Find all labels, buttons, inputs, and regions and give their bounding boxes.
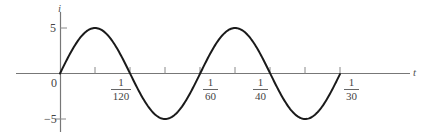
fraction-denominator: 40	[253, 90, 268, 102]
fraction-denominator: 30	[344, 90, 359, 102]
x-axis-label: t	[413, 67, 416, 78]
fraction-numerator: 1	[203, 77, 218, 90]
fraction-numerator: 1	[253, 77, 268, 90]
fraction-numerator: 1	[111, 77, 131, 90]
y-tick-label-neg5: −5	[44, 113, 57, 125]
x-tick-label-1-30: 1 30	[344, 77, 359, 102]
fraction-denominator: 60	[203, 90, 218, 102]
origin-label: 0	[51, 77, 57, 89]
sine-wave-chart	[0, 0, 428, 137]
y-tick-label-pos5: 5	[50, 22, 56, 34]
x-tick-label-1-120: 1 120	[111, 77, 131, 102]
x-ticks	[95, 67, 340, 74]
y-axis-label: i	[58, 3, 61, 14]
x-tick-label-1-60: 1 60	[203, 77, 218, 102]
fraction-numerator: 1	[344, 77, 359, 90]
x-tick-label-1-40: 1 40	[253, 77, 268, 102]
fraction-denominator: 120	[111, 90, 131, 102]
